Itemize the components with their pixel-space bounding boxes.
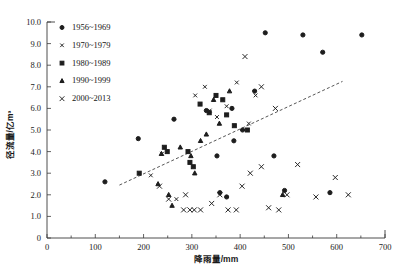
legend-item-1: 1956~1969 [60, 22, 111, 32]
marker-filled-triangle [166, 192, 170, 196]
marker-filled-circle [230, 106, 234, 110]
y-tick-label: 1.0 [30, 211, 41, 221]
marker-cross-x [240, 184, 245, 189]
marker-cross-x [259, 164, 264, 169]
legend-label-1: 1956~1969 [72, 22, 111, 32]
x-tick-label: 500 [282, 242, 295, 252]
legend: 1956~19691970~19791980~19891990~19992000… [60, 22, 111, 103]
marker-filled-triangle [198, 138, 202, 142]
marker-small-x [193, 94, 197, 98]
legend-label-2: 1970~1979 [72, 40, 111, 50]
series-2 [149, 81, 258, 201]
marker-small-x [215, 115, 219, 119]
marker-filled-circle [225, 195, 229, 199]
marker-filled-square [188, 160, 192, 164]
marker-cross-x [226, 207, 231, 212]
x-tick-label: 700 [379, 242, 392, 252]
x-tick-label: 200 [137, 242, 150, 252]
marker-cross-x [295, 162, 300, 167]
marker-small-x [175, 197, 179, 201]
marker-small-x [149, 173, 153, 177]
marker-filled-triangle [170, 203, 174, 207]
marker-filled-square [186, 150, 190, 154]
x-tick-label: 0 [45, 242, 49, 252]
marker-cross-x [333, 175, 338, 180]
marker-filled-circle [136, 137, 140, 141]
marker-small-x [203, 85, 207, 89]
plot-svg: 01.02.03.04.05.06.07.08.09.010.0 0100200… [0, 0, 408, 276]
marker-filled-circle [321, 50, 325, 54]
marker-filled-circle [103, 180, 107, 184]
marker-cross-x [266, 205, 271, 210]
marker-filled-triangle [178, 145, 182, 149]
marker-filled-square [225, 113, 229, 117]
marker-filled-square [207, 111, 211, 115]
x-tick-label: 600 [330, 242, 343, 252]
marker-filled-circle [263, 31, 267, 35]
marker-cross-x [242, 54, 247, 59]
series-5 [157, 54, 351, 212]
marker-cross-x [248, 171, 253, 176]
marker-cross-x [284, 192, 289, 197]
marker-filled-square [60, 61, 64, 65]
x-axis-tick-labels: 0100200300400500600700 [45, 242, 392, 252]
marker-filled-triangle [193, 171, 197, 175]
marker-filled-circle [240, 128, 244, 132]
x-axis-title-text: 降雨量/mm [194, 254, 239, 264]
x-tick-label: 300 [185, 242, 198, 252]
marker-filled-triangle [211, 97, 215, 101]
marker-filled-triangle [204, 132, 208, 136]
marker-filled-square [162, 145, 166, 149]
y-tick-label: 6.0 [30, 103, 41, 113]
series-1 [103, 31, 364, 199]
y-tick-label: 8.0 [30, 60, 41, 70]
marker-filled-square [245, 128, 249, 132]
marker-filled-square [214, 93, 218, 97]
marker-filled-circle [172, 117, 176, 121]
marker-small-x [254, 94, 258, 98]
marker-filled-circle [215, 154, 219, 158]
marker-cross-x [198, 207, 203, 212]
marker-cross-x [187, 207, 192, 212]
legend-item-4: 1990~1999 [60, 75, 111, 85]
series-3 [137, 93, 249, 175]
marker-small-x [235, 81, 239, 85]
y-tick-label: 7.0 [30, 82, 41, 92]
marker-cross-x [313, 194, 318, 199]
marker-filled-square [191, 165, 195, 169]
x-axis-ticks [47, 234, 385, 238]
marker-cross-x [183, 192, 188, 197]
marker-filled-square [232, 124, 236, 128]
marker-filled-triangle [60, 79, 64, 83]
marker-filled-circle [301, 33, 305, 37]
marker-cross-x [276, 207, 281, 212]
marker-cross-x [259, 84, 264, 89]
axis-frame [47, 22, 385, 238]
y-axis-tick-labels: 01.02.03.04.05.06.07.08.09.010.0 [26, 17, 41, 243]
marker-filled-triangle [227, 89, 231, 93]
marker-cross-x [192, 207, 197, 212]
marker-filled-circle [60, 26, 64, 30]
marker-filled-square [198, 102, 202, 106]
marker-cross-x [273, 106, 278, 111]
legend-label-4: 1990~1999 [72, 75, 111, 85]
marker-filled-circle [253, 89, 257, 93]
marker-cross-x [181, 207, 186, 212]
legend-label-5: 2000~2013 [72, 93, 111, 103]
legend-item-2: 1970~1979 [60, 40, 110, 50]
marker-filled-triangle [159, 151, 163, 155]
x-tick-label: 100 [89, 242, 102, 252]
marker-filled-circle [328, 191, 332, 195]
marker-cross-x [209, 201, 214, 206]
y-axis-title: 径流量/亿m³ [5, 110, 15, 159]
marker-filled-circle [272, 154, 276, 158]
marker-filled-triangle [217, 121, 221, 125]
marker-filled-square [221, 98, 225, 102]
marker-filled-square [165, 150, 169, 154]
y-axis-title-text: 径流量/亿m³ [5, 110, 15, 159]
scatter-chart: 01.02.03.04.05.06.07.08.09.010.0 0100200… [0, 0, 408, 276]
y-tick-label: 0 [37, 233, 41, 243]
marker-filled-square [137, 171, 141, 175]
marker-small-x [225, 104, 229, 108]
y-axis-ticks [47, 22, 51, 238]
